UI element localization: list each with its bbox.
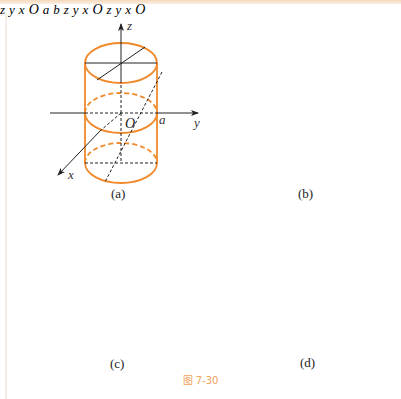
radius-mark-a: a: [159, 112, 166, 127]
panel-a: z y x O a: [50, 18, 200, 183]
panel-b-label: (b): [298, 186, 313, 202]
origin-label: O: [125, 116, 135, 131]
panel-c-label: (c): [110, 356, 124, 372]
figure-7-30: z y x O a: [0, 0, 401, 399]
y-axis-label: y: [192, 115, 200, 130]
panel-a-label: (a): [111, 186, 125, 202]
figure-caption: 图 7-30: [0, 372, 401, 387]
z-axis-label: z: [126, 18, 132, 33]
x-axis-label: x: [67, 167, 74, 182]
panel-d-label: (d): [300, 355, 315, 371]
